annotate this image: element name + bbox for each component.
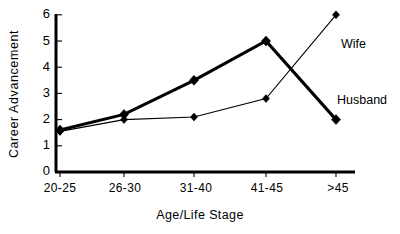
- y-tick-label-3: 3: [43, 85, 50, 100]
- y-tick-label-1: 1: [43, 137, 50, 152]
- chart-container: 6 5 4 3 2 1 0 20-25 26-30 31-40 41-45 >4…: [0, 0, 400, 234]
- series-label-wife: Wife: [341, 37, 366, 51]
- y-tick-label-0: 0: [43, 163, 50, 178]
- series-label-husband: Husband: [337, 93, 387, 107]
- y-tick-label-5: 5: [43, 33, 50, 48]
- x-tick-label-20-25: 20-25: [44, 181, 77, 195]
- career-advancement-line-chart: 6 5 4 3 2 1 0 20-25 26-30 31-40 41-45 >4…: [0, 0, 400, 234]
- x-tick-label-over-45: >45: [327, 181, 349, 195]
- x-tick-label-31-40: 31-40: [180, 181, 213, 195]
- y-axis-title: Career Advancement: [7, 30, 21, 158]
- x-tick-label-41-45: 41-45: [251, 181, 284, 195]
- y-tick-label-2: 2: [43, 111, 50, 126]
- y-tick-label-4: 4: [43, 59, 50, 74]
- x-axis-title: Age/Life Stage: [156, 208, 244, 222]
- x-tick-label-26-30: 26-30: [109, 181, 142, 195]
- y-tick-label-6: 6: [43, 6, 50, 21]
- chart-background: [0, 0, 400, 234]
